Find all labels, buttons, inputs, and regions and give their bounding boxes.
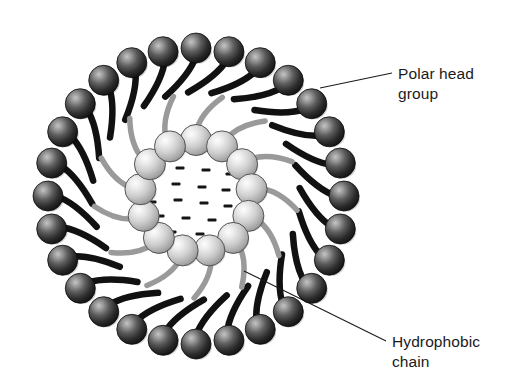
polar-head-sphere xyxy=(181,329,211,359)
polar-head-sphere xyxy=(245,48,275,78)
polar-head-sphere xyxy=(236,174,267,205)
hydrophobic-chain-label-line1: Hydrophobic xyxy=(392,333,480,350)
inner-polar-head-group xyxy=(154,131,186,162)
core-dash xyxy=(198,185,207,188)
polar-head-sphere xyxy=(89,297,119,327)
inner-polar-head-group xyxy=(128,200,160,231)
polar-head-sphere xyxy=(117,48,147,78)
core-dash xyxy=(208,218,217,221)
polar-head-sphere xyxy=(325,148,355,178)
core-dash xyxy=(172,182,181,185)
polar-head-sphere xyxy=(273,297,303,327)
inner-polar-head-group xyxy=(194,235,226,266)
core-dash xyxy=(202,168,211,171)
polar-head-sphere xyxy=(245,314,275,344)
polar-head-sphere xyxy=(154,131,185,162)
polar-head-sphere xyxy=(325,214,355,244)
polar-head-sphere xyxy=(148,325,178,355)
core-dash xyxy=(196,232,205,235)
core-dash xyxy=(200,201,209,204)
polar-head-group-label-line1: Polar head xyxy=(398,65,474,82)
polar-head-sphere xyxy=(297,89,327,119)
core-dash xyxy=(182,216,191,219)
core-dash xyxy=(176,166,185,169)
polar-head-sphere xyxy=(89,65,119,95)
hydrophobic-chain-label-line2: chain xyxy=(392,353,430,370)
polar-head-sphere xyxy=(33,181,63,211)
polar-head-sphere xyxy=(329,181,359,211)
polar-head-sphere xyxy=(65,89,95,119)
polar-head-sphere xyxy=(214,325,244,355)
liposome-diagram-canvas: Polar head group Hydrophobic chain xyxy=(0,0,512,390)
polar-head-sphere xyxy=(314,245,344,275)
polar-head-sphere xyxy=(117,314,147,344)
polar-head-sphere xyxy=(128,200,159,231)
polar-head-sphere xyxy=(148,37,178,67)
liposome-figure: Polar head group Hydrophobic chain xyxy=(0,0,512,390)
polar-head-group-label-line2: group xyxy=(398,85,438,102)
core-dash xyxy=(222,188,231,191)
polar-head-sphere xyxy=(65,273,95,303)
polar-head-sphere xyxy=(37,148,67,178)
core-dash xyxy=(174,198,183,201)
polar-head-sphere xyxy=(48,245,78,275)
polar-head-sphere xyxy=(181,33,211,63)
core-dash xyxy=(224,204,233,207)
polar-head-sphere xyxy=(314,117,344,147)
polar-head-sphere xyxy=(37,214,67,244)
polar-head-sphere xyxy=(273,65,303,95)
polar-head-sphere xyxy=(214,37,244,67)
polar-head-sphere xyxy=(48,117,78,147)
